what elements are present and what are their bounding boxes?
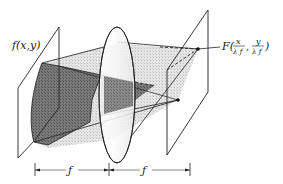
second-distance-label: ƒ xyxy=(139,164,148,177)
output-function-label: F( x λ ƒ , y λ ƒ ) xyxy=(221,37,269,56)
label-pointer xyxy=(198,47,220,49)
svg-text:λ ƒ: λ ƒ xyxy=(232,48,244,56)
fourier-lens-diagram: f(x,y) F( x λ ƒ , y λ ƒ ) ƒ ƒ xyxy=(0,0,283,184)
dimension-lines xyxy=(35,163,190,176)
svg-text:y: y xyxy=(255,37,261,46)
first-distance-label: ƒ xyxy=(65,164,74,177)
svg-text:λ ƒ: λ ƒ xyxy=(251,48,263,56)
diagram-stage: f(x,y) F( x λ ƒ , y λ ƒ ) ƒ ƒ xyxy=(0,0,283,184)
secondary-point xyxy=(176,98,180,102)
lens xyxy=(99,27,135,163)
input-function-label: f(x,y) xyxy=(11,39,41,52)
svg-text:): ) xyxy=(264,40,269,53)
svg-text:,: , xyxy=(246,41,249,52)
svg-text:x: x xyxy=(236,37,241,46)
